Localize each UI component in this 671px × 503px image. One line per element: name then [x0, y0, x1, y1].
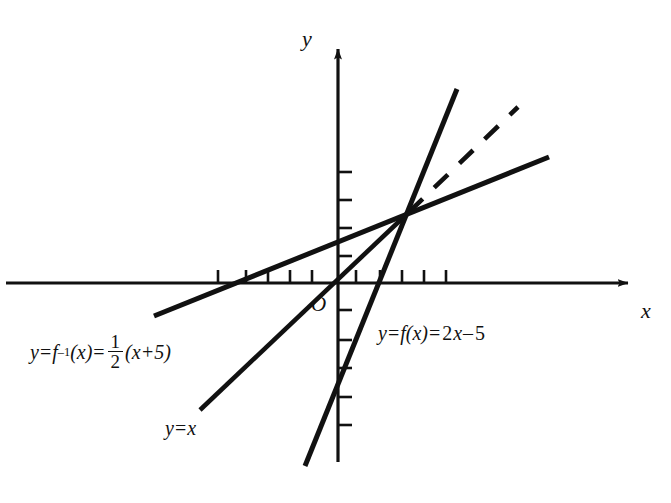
function-inverse-graph-figure: y x O y = f –1 (x) = 1 2 (x+5) y = f (x)… — [0, 0, 671, 503]
fraction-denominator: 2 — [108, 351, 124, 371]
identity-eq-x: x — [187, 418, 196, 438]
inverse-eq-argument: (x) — [70, 342, 92, 362]
identity-eq-y: y — [165, 418, 174, 438]
function-eq-minus: – — [462, 323, 474, 343]
inverse-function-line — [154, 157, 549, 316]
inverse-function-equation-label: y = f –1 (x) = 1 2 (x+5) — [30, 332, 171, 372]
identity-equation-label: y = x — [165, 418, 196, 438]
inverse-eq-binomial: (x+5) — [125, 342, 171, 362]
origin-label: O — [311, 294, 326, 315]
identity-eq-equals: = — [174, 418, 187, 438]
function-eq-variable: x — [453, 323, 462, 343]
function-eq-y: y — [378, 323, 387, 343]
x-axis-label: x — [641, 300, 651, 322]
function-eq-constant: 5 — [474, 323, 486, 343]
fraction-numerator: 1 — [108, 332, 124, 351]
identity-line-dashed — [409, 107, 518, 212]
function-eq-equals-1: = — [387, 323, 400, 343]
y-axis-label: y — [302, 28, 312, 50]
function-equation-label: y = f (x) = 2 x – 5 — [378, 323, 486, 343]
inverse-eq-equals-1: = — [39, 342, 52, 362]
inverse-eq-y: y — [30, 342, 39, 362]
y-axis-ticks — [338, 172, 352, 425]
graph-canvas — [0, 0, 671, 503]
function-eq-argument: (x) — [406, 323, 428, 343]
one-half-fraction: 1 2 — [108, 332, 124, 372]
function-eq-equals-2: = — [428, 323, 441, 343]
function-line — [305, 89, 457, 466]
inverse-eq-f: f — [52, 342, 58, 362]
inverse-eq-equals-2: = — [92, 342, 105, 362]
function-eq-coefficient: 2 — [441, 323, 453, 343]
identity-line-solid — [200, 212, 409, 410]
